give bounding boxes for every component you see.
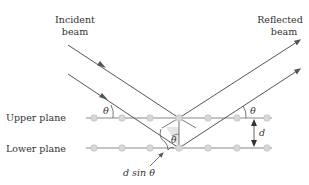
d-arrowhead-bottom: [251, 140, 257, 147]
atom: [205, 115, 212, 122]
atom: [234, 115, 241, 122]
d-label: d: [259, 127, 265, 138]
theta-arc-left: [111, 105, 113, 118]
incident-arrowhead-lower: [99, 93, 108, 100]
reflected-ray-upper: [179, 40, 300, 118]
upper-plane-label: Upper plane: [6, 112, 66, 123]
reflected-beam-label-2: beam: [271, 26, 297, 37]
theta-label-center: θ: [171, 135, 177, 145]
atom: [176, 145, 183, 152]
incident-beam-label: Incident: [55, 14, 95, 25]
atom: [234, 145, 241, 152]
reflected-ray-lower: [179, 69, 300, 148]
atom: [119, 115, 126, 122]
theta-arc-right: [243, 106, 246, 118]
atom: [264, 115, 271, 122]
incident-ray-upper: [68, 45, 179, 118]
dsin-pointer: [150, 153, 163, 166]
incident-beam-label-2: beam: [62, 26, 88, 37]
atom: [176, 115, 183, 122]
atom: [147, 115, 154, 122]
bragg-diagram: Incident beam Reflected beam Upper plane…: [0, 0, 309, 185]
reflected-beam-label: Reflected: [257, 14, 303, 25]
d-arrowhead-top: [251, 119, 257, 126]
theta-label-left: θ: [103, 105, 109, 116]
atom: [264, 145, 271, 152]
atom: [205, 145, 212, 152]
lower-plane-label: Lower plane: [6, 143, 66, 154]
incident-ray-lower: [68, 74, 179, 148]
atom: [91, 145, 98, 152]
atom: [119, 145, 126, 152]
atom: [91, 115, 98, 122]
theta-label-right: θ: [250, 105, 256, 116]
atom: [147, 145, 154, 152]
d-sin-theta-label: d sin θ: [123, 167, 155, 178]
